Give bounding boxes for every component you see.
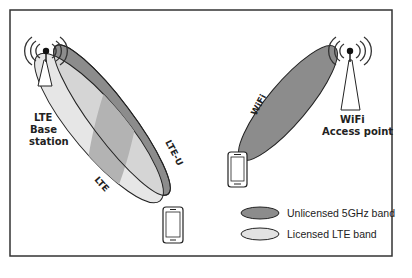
wifi-ap-label-2: Access point xyxy=(322,126,393,137)
lte-station-label-1: LTE xyxy=(34,112,53,123)
legend-swatch-unlicensed xyxy=(241,207,279,219)
legend-label-licensed: Licensed LTE band xyxy=(287,228,377,240)
wifi-phone-icon xyxy=(228,152,247,187)
wifi-ap-label-1: WiFi xyxy=(340,114,365,125)
legend-swatch-licensed xyxy=(241,228,279,240)
lte-phone-icon xyxy=(163,207,183,243)
lte-station-label-3: station xyxy=(29,136,69,147)
diagram-canvas: LTE Base station WiFi Access point LTE-U… xyxy=(0,0,412,278)
legend-label-unlicensed: Unlicensed 5GHz band xyxy=(287,207,395,219)
lte-station-label-2: Base xyxy=(30,124,57,135)
